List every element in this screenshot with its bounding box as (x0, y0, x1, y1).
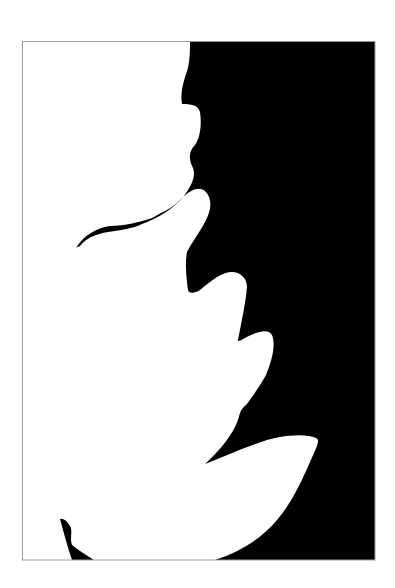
leaf-silhouette-figure (0, 0, 395, 588)
